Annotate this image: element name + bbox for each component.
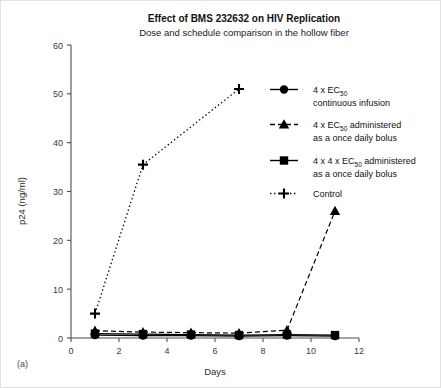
y-tick-label: 10: [53, 285, 63, 295]
x-tick-label: 2: [116, 346, 121, 356]
y-axis-title: p24 (ng/ml): [16, 177, 27, 225]
series-2-square-marker: [283, 330, 291, 338]
series-2-square-marker: [139, 330, 147, 338]
chart-title: Effect of BMS 232632 on HIV Replication: [148, 13, 340, 24]
titles-group: Effect of BMS 232632 on HIV Replication …: [139, 13, 349, 38]
series-group: [90, 84, 340, 340]
series-2-square-marker: [235, 331, 243, 339]
x-tick-label: 10: [306, 346, 316, 356]
legend-label-1: 4 x EC50 administered: [313, 120, 401, 132]
series-1-triangle-marker: [330, 206, 340, 215]
y-tick-label: 50: [53, 89, 63, 99]
legend-item-3[interactable]: Control: [270, 189, 342, 200]
legend-0-circle-marker: [280, 85, 288, 93]
y-tick-label: 30: [53, 187, 63, 197]
legend-3-plus-marker: [279, 189, 289, 199]
legend-item-0[interactable]: 4 x EC50continuous infusion: [270, 85, 390, 108]
x-axis-ticks: 024681012: [68, 338, 364, 356]
series-2-square-marker: [331, 331, 339, 339]
y-tick-label: 40: [53, 138, 63, 148]
series-3-plus-marker: [234, 84, 244, 94]
y-tick-label: 20: [53, 236, 63, 246]
chart-legend: 4 x EC50continuous infusion4 x EC50 admi…: [270, 85, 416, 199]
y-tick-label: 0: [58, 334, 63, 344]
legend-item-1[interactable]: 4 x EC50 administeredas a once daily bol…: [270, 119, 401, 143]
x-tick-label: 6: [212, 346, 217, 356]
legend-label-0: 4 x EC50: [313, 85, 348, 97]
legend-label-2: 4 x 4 x EC50 administered: [313, 156, 416, 168]
x-axis-title: Days: [204, 366, 226, 377]
series-3-plus-marker: [90, 309, 100, 319]
legend-2-square-marker: [280, 156, 288, 164]
legend-item-2[interactable]: 4 x 4 x EC50 administeredas a once daily…: [270, 156, 416, 179]
series-1: [90, 206, 340, 337]
legend-label2-2: as a once daily bolus: [313, 169, 398, 179]
y-tick-label: 60: [53, 41, 63, 51]
series-line-1: [95, 211, 335, 333]
series-line-3: [95, 89, 239, 314]
x-tick-label: 4: [164, 346, 169, 356]
series-2-square-marker: [91, 329, 99, 337]
legend-label2-0: continuous infusion: [313, 98, 390, 108]
legend-label-3: Control: [313, 189, 342, 199]
series-2-square-marker: [187, 330, 195, 338]
panel-label: (a): [17, 359, 28, 369]
series-3: [90, 84, 244, 319]
chart-svg: Effect of BMS 232632 on HIV Replication …: [1, 1, 441, 388]
chart-subtitle: Dose and schedule comparison in the holl…: [139, 27, 349, 38]
figure-panel: Effect of BMS 232632 on HIV Replication …: [0, 0, 441, 388]
y-axis-ticks: 0102030405060: [53, 41, 71, 344]
x-tick-label: 0: [68, 346, 73, 356]
x-tick-label: 12: [354, 346, 364, 356]
legend-label2-1: as a once daily bolus: [313, 133, 398, 143]
x-tick-label: 8: [260, 346, 265, 356]
legend-subscript-0: 50: [340, 90, 348, 97]
